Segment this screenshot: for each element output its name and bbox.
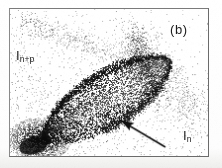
axis-label-y: In+p xyxy=(16,49,34,62)
axis-label-x-sub: n xyxy=(187,134,192,144)
axis-label-x: In xyxy=(183,129,192,142)
axis-label-y-sub: n+p xyxy=(20,54,35,64)
figure-root: In+p In (b) xyxy=(0,0,222,168)
panel-label: (b) xyxy=(170,23,188,36)
